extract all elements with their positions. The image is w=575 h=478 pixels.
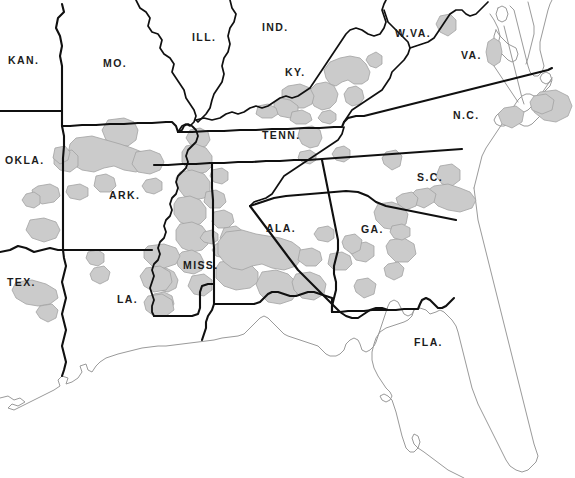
range-patch: [328, 252, 352, 270]
state-label-mississippi: MISS.: [183, 260, 219, 271]
distribution-map: KAN. MO. ILL. IND. W.VA. VA. KY. N.C. TE…: [0, 0, 575, 478]
range-patch: [66, 184, 88, 200]
state-label-north-carolina: N.C.: [453, 110, 480, 121]
range-patch: [86, 250, 104, 266]
range-patch: [314, 226, 334, 242]
state-label-texas: TEX.: [7, 277, 36, 288]
state-label-west-virginia: W.VA.: [395, 28, 431, 39]
range-patch: [384, 262, 404, 280]
range-patch: [436, 14, 456, 36]
florida-coastline: [414, 188, 538, 472]
range-patch: [218, 230, 302, 270]
range-patch: [486, 38, 502, 66]
range-patch: [132, 150, 164, 174]
range-patch: [324, 56, 370, 86]
border-oklahoma-texas: [0, 246, 63, 252]
state-label-tennessee: TENN.: [262, 130, 301, 141]
range-patch: [332, 146, 350, 162]
range-patch: [298, 248, 322, 266]
range-patch: [142, 178, 162, 194]
border-illinois-indiana: [196, 0, 236, 122]
range-patch: [36, 304, 58, 322]
range-patch: [318, 110, 336, 124]
range-patch: [354, 278, 376, 298]
range-patch: [204, 190, 226, 208]
state-label-kansas: KAN.: [8, 55, 39, 66]
border-oklahoma-arkansas: [62, 126, 64, 250]
delmarva-peninsula: [526, 2, 534, 64]
chesapeake-bay-coastline: [496, 6, 508, 22]
border-texas-louisiana: [62, 250, 66, 376]
border-illinois-missouri: [136, 0, 196, 132]
state-label-arkansas: ARK.: [109, 190, 140, 201]
state-label-alabama: ALA.: [266, 223, 296, 234]
state-label-georgia: GA.: [361, 224, 384, 235]
range-patch: [22, 192, 40, 208]
range-patch: [144, 244, 180, 268]
range-patch: [530, 94, 554, 114]
range-patch: [290, 110, 312, 124]
border-tennessee-south: [154, 160, 308, 165]
range-patch: [90, 266, 110, 284]
state-label-oklahoma: OKLA.: [5, 155, 45, 166]
state-label-illinois: ILL.: [192, 32, 216, 43]
range-patch: [212, 210, 234, 228]
state-label-south-carolina: S.C.: [417, 172, 443, 183]
range-patch: [26, 218, 60, 242]
range-patch: [390, 224, 410, 240]
atlantic-coastline: [474, 72, 552, 188]
chesapeake-inlet: [510, 0, 552, 76]
border-kansas-missouri: [56, 4, 64, 126]
range-patch: [386, 238, 416, 262]
state-label-indiana: IND.: [262, 22, 289, 33]
state-label-virginia: VA.: [461, 50, 482, 61]
range-patch: [140, 266, 172, 292]
state-label-louisiana: LA.: [117, 294, 138, 305]
range-patch: [366, 52, 382, 68]
range-patch: [174, 196, 206, 226]
state-label-florida: FLA.: [414, 337, 443, 348]
border-mississippi-south: [202, 304, 214, 340]
state-label-missouri: MO.: [103, 58, 127, 69]
range-patch: [298, 126, 322, 148]
range-patch-group: [12, 14, 572, 322]
state-label-kentucky: KY.: [285, 67, 306, 78]
